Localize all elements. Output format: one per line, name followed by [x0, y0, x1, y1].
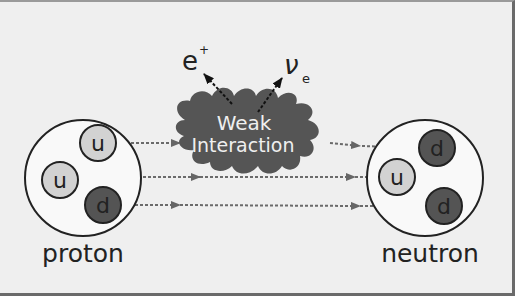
neutrino-label: ν e [284, 50, 310, 86]
weak-interaction-blob: Weak Interaction [176, 88, 319, 174]
interaction-label-line1: Weak [217, 111, 272, 135]
svg-text:d: d [96, 193, 110, 218]
neutrino-symbol: ν [284, 50, 299, 80]
svg-text:u: u [91, 131, 105, 156]
flow-arrow-top-out [330, 143, 360, 146]
neutron-quark-d-bottom: d [426, 188, 462, 224]
proton: u u d proton [25, 120, 141, 268]
svg-text:d: d [430, 136, 444, 161]
positron-label: e + [182, 43, 209, 76]
neutron-quark-u: u [379, 159, 415, 195]
weak-interaction-diagram: Weak Interaction e + ν e u u d proton [0, 0, 529, 301]
neutrino-flavor: e [302, 71, 310, 86]
neutron-quark-d-top: d [419, 130, 455, 166]
interaction-label-line2: Interaction [191, 134, 294, 156]
neutron: d u d neutron [367, 120, 483, 268]
proton-quark-d: d [85, 187, 121, 223]
svg-text:d: d [437, 194, 451, 219]
positron-symbol: e [182, 46, 198, 76]
proton-quark-u-left: u [42, 162, 78, 198]
proton-quark-u-top: u [80, 125, 116, 161]
svg-text:u: u [53, 168, 67, 193]
positron-charge: + [199, 43, 209, 57]
neutron-label: neutron [381, 239, 479, 268]
proton-label: proton [42, 239, 124, 268]
svg-text:u: u [390, 165, 404, 190]
